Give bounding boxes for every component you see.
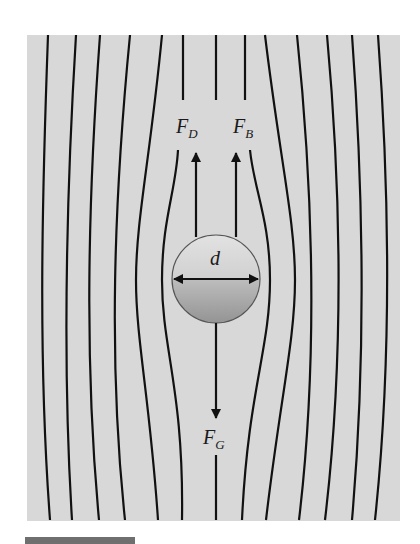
footer-bar	[25, 537, 135, 544]
flow-diagram: d FD FB FG	[0, 0, 420, 544]
diameter-label: d	[210, 247, 221, 269]
